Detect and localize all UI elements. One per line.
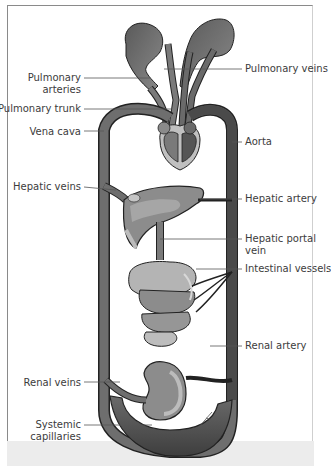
heart [158, 122, 200, 170]
label-text: arteries [28, 84, 81, 96]
label-hepatic-veins: Hepatic veins [13, 181, 81, 193]
label-hepatic-portal-vein: Hepatic portal vein [245, 233, 316, 257]
kidney [143, 362, 186, 420]
label-text: capillaries [30, 431, 81, 443]
label-text: Intestinal vessels [245, 263, 331, 275]
label-text: Aorta [245, 136, 272, 148]
label-vena-cava: Vena cava [29, 126, 81, 138]
label-text: Pulmonary [28, 72, 81, 84]
label-renal-veins: Renal veins [24, 377, 81, 389]
label-aorta: Aorta [245, 136, 272, 148]
label-text: Pulmonary trunk [0, 103, 81, 115]
label-pulmonary-veins: Pulmonary veins [245, 63, 328, 75]
label-pulmonary-arteries: Pulmonary arteries [28, 72, 81, 96]
label-text: Hepatic veins [13, 181, 81, 193]
label-intestinal-vessels: Intestinal vessels [245, 263, 331, 275]
label-text: vein [245, 245, 316, 257]
label-text: Vena cava [29, 126, 81, 138]
label-renal-artery: Renal artery [245, 340, 306, 352]
label-text: Hepatic portal [245, 233, 316, 245]
label-text: Pulmonary veins [245, 63, 328, 75]
label-hepatic-artery: Hepatic artery [245, 193, 317, 205]
label-systemic-capillaries: Systemic capillaries [30, 419, 81, 443]
label-pulmonary-trunk: Pulmonary trunk [0, 103, 81, 115]
lung-left [125, 23, 162, 92]
label-text: Systemic [30, 419, 81, 431]
intestines [129, 261, 196, 346]
label-text: Hepatic artery [245, 193, 317, 205]
label-text: Renal artery [245, 340, 306, 352]
label-text: Renal veins [24, 377, 81, 389]
